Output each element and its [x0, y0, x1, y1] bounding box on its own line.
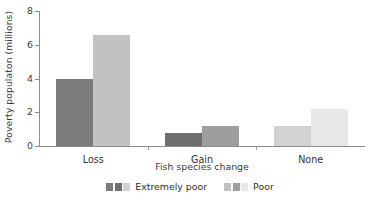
- legend-entry-extremely-poor[interactable]: Extremely poor: [106, 182, 207, 191]
- legend-swatch: [115, 183, 122, 191]
- chart-legend: Extremely poorPoor: [0, 182, 380, 191]
- y-axis-tick-mark: [35, 146, 39, 147]
- legend-swatch: [123, 183, 130, 191]
- y-axis-tick-label: 0: [27, 141, 33, 150]
- legend-swatch-group: [106, 183, 130, 191]
- bar-loss-extremely-poor: [56, 79, 93, 147]
- y-axis-tick-label: 2: [27, 108, 33, 117]
- bar-none-poor: [311, 109, 348, 146]
- legend-swatch-group: [224, 183, 248, 191]
- legend-swatch: [241, 183, 248, 191]
- legend-swatch: [106, 183, 113, 191]
- bar-none-extremely-poor: [274, 126, 311, 146]
- bar-chart-figure: Poverty populaton (millions) 02468 LossG…: [0, 0, 380, 204]
- bar-gain-extremely-poor: [165, 133, 202, 146]
- x-axis-tick-mark: [256, 146, 257, 150]
- x-axis-title: Fish species change: [39, 161, 365, 172]
- bar-loss-poor: [93, 35, 130, 146]
- legend-swatch: [224, 183, 231, 191]
- legend-swatch: [233, 183, 240, 191]
- bars-layer: [39, 11, 365, 146]
- legend-label: Poor: [253, 182, 274, 191]
- legend-entry-poor[interactable]: Poor: [224, 182, 274, 191]
- plot-area: 02468 LossGainNone: [39, 11, 365, 146]
- bar-gain-poor: [202, 126, 239, 146]
- legend-label: Extremely poor: [135, 182, 207, 191]
- y-axis-tick-label: 8: [27, 6, 33, 15]
- y-axis-title: Poverty populaton (millions): [1, 2, 17, 152]
- x-axis-tick-mark: [148, 146, 149, 150]
- y-axis-tick-label: 6: [27, 40, 33, 49]
- y-axis-tick-label: 4: [27, 74, 33, 83]
- x-axis-spine: [35, 146, 365, 147]
